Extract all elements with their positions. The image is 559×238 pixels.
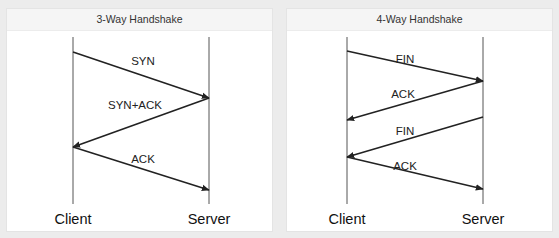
message-label: SYN+ACK xyxy=(108,99,162,111)
message-arrow xyxy=(347,51,483,81)
four-way-handshake-panel: 4-Way Handshake FINACKFINACKClientServer xyxy=(286,8,553,232)
message-label: FIN xyxy=(396,125,415,137)
server-label: Server xyxy=(462,211,505,227)
message-arrow xyxy=(347,81,483,120)
message-label: ACK xyxy=(391,88,415,100)
client-label: Client xyxy=(54,211,91,227)
message-label: ACK xyxy=(131,153,155,165)
message-label: FIN xyxy=(396,53,415,65)
message-label: ACK xyxy=(393,160,417,172)
three-way-handshake-panel: 3-Way Handshake SYNSYN+ACKACKClientServe… xyxy=(6,8,273,232)
message-arrow xyxy=(347,117,483,157)
sequence-diagram: SYNSYN+ACKACKClientServer xyxy=(7,9,272,231)
server-label: Server xyxy=(188,211,231,227)
sequence-diagram: FINACKFINACKClientServer xyxy=(287,9,552,231)
message-label: SYN xyxy=(131,55,155,67)
client-label: Client xyxy=(328,211,365,227)
